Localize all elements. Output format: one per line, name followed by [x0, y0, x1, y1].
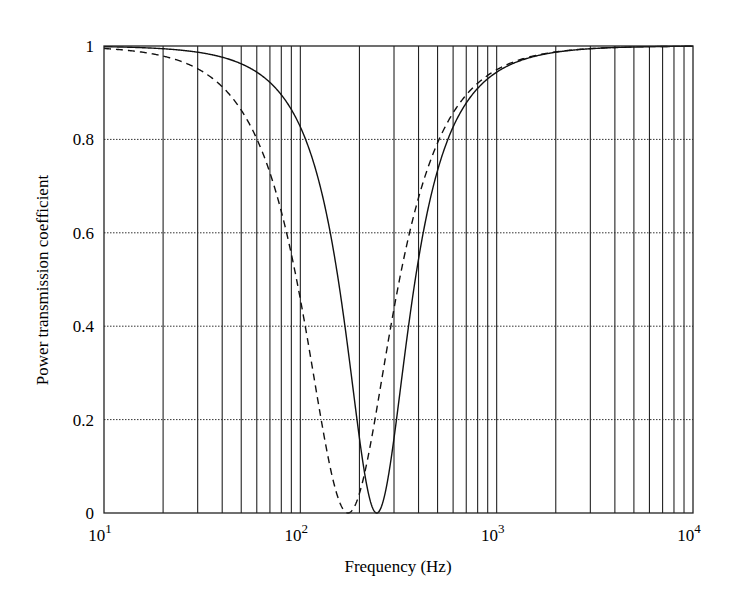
y-tick-labels: 00.20.40.60.81 — [73, 37, 95, 523]
plot-frame — [104, 46, 693, 513]
y-tick-label: 0.8 — [73, 130, 94, 149]
curve-solid — [104, 46, 693, 513]
x-tick-label: 102 — [285, 521, 309, 545]
y-tick-label: 0.2 — [73, 411, 94, 430]
x-tick-labels: 101102103104 — [88, 521, 701, 545]
y-tick-label: 0.6 — [73, 224, 94, 243]
y-axis-label: Power transmission coefficient — [33, 175, 52, 386]
transmission-chart: 00.20.40.60.81 101102103104 Frequency (H… — [0, 0, 733, 606]
curves — [104, 46, 693, 513]
grid — [104, 46, 693, 513]
y-tick-label: 0 — [86, 504, 95, 523]
x-axis-label: Frequency (Hz) — [344, 557, 451, 576]
x-tick-label: 104 — [677, 521, 701, 545]
y-tick-label: 1 — [86, 37, 95, 56]
x-tick-label: 101 — [88, 521, 112, 545]
x-tick-label: 103 — [481, 521, 505, 545]
curve-dashed — [104, 46, 693, 513]
y-tick-label: 0.4 — [73, 317, 95, 336]
